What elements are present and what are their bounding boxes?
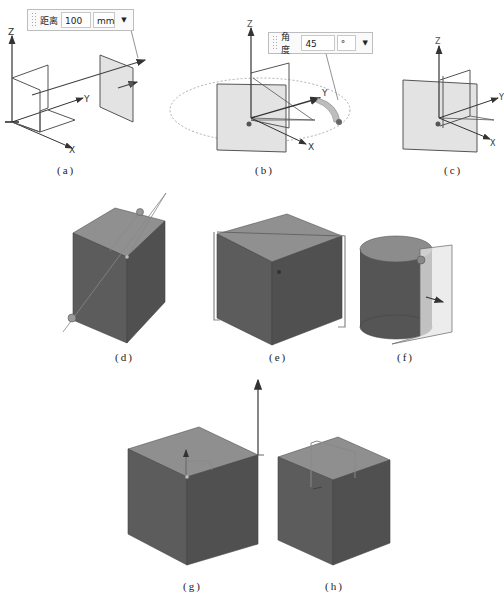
caption-a: (a) [57,164,75,176]
panel-c-drawing [403,46,498,152]
caption-f: (f) [397,351,414,363]
grip-handle-icon[interactable] [272,35,278,51]
angle-label: 角度 [281,30,299,56]
figure-canvas: Z Y X Z Y X Z Y X [0,0,504,606]
distance-unit-select[interactable]: mm [93,12,115,28]
axis-label-z: Z [8,27,14,37]
caption-c: (c) [444,164,462,176]
distance-input-box: 距离 100 mm ▼ [27,9,134,31]
axis-label-x: X [308,142,314,152]
axis-label-z: Z [247,20,253,29]
panel-f-cylinder [360,236,452,344]
chevron-down-icon[interactable]: ▼ [117,12,131,28]
axis-label-y: Y [83,94,90,104]
axis-label-y: Y [321,88,328,98]
chevron-down-icon[interactable]: ▼ [358,35,372,51]
panel-h-cube [278,437,390,565]
axis-label-y: Y [498,93,504,102]
axis-label-z: Z [435,37,441,46]
distance-label: 距离 [40,14,58,27]
panel-d-cube [63,193,166,343]
distance-value-input[interactable]: 100 [61,12,91,28]
x-axis-arrow-icon [12,122,72,148]
grip-handle-icon[interactable] [31,12,37,28]
angle-arc-handle [316,98,340,122]
panel-g-cube [128,380,264,565]
caption-g: (g) [183,580,202,592]
angle-unit-select[interactable]: ° [337,35,357,51]
axis-label-x: X [490,139,496,148]
caption-d: (d) [115,351,134,363]
panel-a-drawing [5,30,145,148]
angle-value-input[interactable]: 45 [301,35,334,51]
caption-h: (h) [325,580,344,592]
angle-input-box: 角度 45 ° ▼ [268,32,373,54]
caption-e: (e) [269,351,287,363]
caption-b: (b) [255,164,274,176]
panel-e-cube [214,214,345,345]
axis-label-x: X [69,145,75,155]
